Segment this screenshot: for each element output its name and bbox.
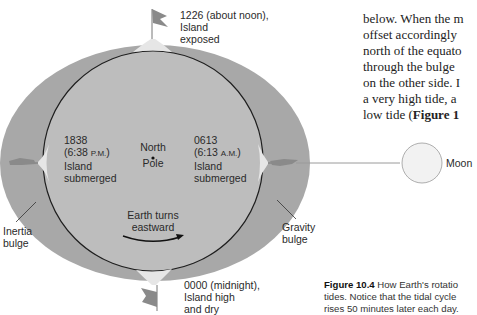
label-rotation: Earth turns eastward — [118, 209, 188, 233]
label-gravity-line1: Gravity — [282, 221, 315, 233]
label-inertia-bulge: Inertia bulge — [3, 225, 32, 249]
label-morning: 0613 (6:13 A.M.) Island submerged — [194, 134, 247, 184]
label-morning-clock: (6:13 A.M.) — [194, 146, 247, 160]
caption-figure-number: Figure 10.4 — [324, 279, 375, 290]
moon-circle — [402, 143, 442, 183]
label-evening-time: 1838 — [64, 134, 117, 146]
body-text: low tide ( — [363, 107, 413, 122]
label-evening-ampm: P.M. — [91, 149, 106, 158]
label-morning-line4: submerged — [194, 172, 247, 184]
caption-line: tides. Notice that the tidal cycle — [324, 291, 459, 303]
label-noon: 1226 (about noon), Island exposed — [180, 9, 269, 45]
label-noon-time: 1226 (about noon), — [180, 9, 269, 21]
label-morning-ampm: A.M. — [221, 149, 237, 158]
label-rotation-line1: Earth turns — [118, 209, 188, 221]
label-morning-time: 0613 — [194, 134, 247, 146]
label-evening-clock: (6:38 P.M.) — [64, 146, 117, 160]
label-morning-clock-time: (6:13 — [194, 146, 221, 158]
label-gravity-line2: bulge — [282, 233, 315, 245]
caption-line: Figure 10.4 How Earth's rotatio — [324, 279, 459, 291]
label-evening-line4: submerged — [64, 172, 117, 184]
label-inertia-line1: Inertia — [3, 225, 32, 237]
figure-caption: Figure 10.4 How Earth's rotatio tides. N… — [324, 279, 459, 315]
label-midnight-line2: Island high — [184, 291, 260, 303]
label-evening-clock-time: (6:38 — [64, 146, 91, 158]
label-midnight: 0000 (midnight), Island high and dry — [184, 279, 260, 315]
label-rotation-line2: eastward — [118, 221, 188, 233]
label-moon: Moon — [446, 157, 472, 169]
label-north-pole: North Pole — [133, 141, 173, 169]
body-line: on the other side. I — [363, 75, 477, 91]
body-line: below. When the m — [363, 11, 477, 27]
caption-line: rises 50 minutes later each day. — [324, 303, 459, 315]
label-noon-line3: exposed — [180, 33, 269, 45]
body-line: through the bulge — [363, 59, 477, 75]
body-line: low tide (Figure 1 — [363, 107, 477, 123]
caption-text: How Earth's rotatio — [375, 279, 458, 290]
flag-top-icon — [152, 9, 168, 39]
label-inertia-line2: bulge — [3, 237, 32, 249]
label-midnight-time: 0000 (midnight), — [184, 279, 260, 291]
label-pole: Pole — [133, 157, 173, 169]
label-evening-paren: ) — [106, 146, 110, 158]
label-morning-line3: Island — [194, 160, 247, 172]
label-evening: 1838 (6:38 P.M.) Island submerged — [64, 134, 117, 184]
label-north: North — [133, 141, 173, 153]
flag-bottom-icon — [141, 285, 157, 311]
body-line: a very high tide, a — [363, 91, 477, 107]
figure-reference: Figure 1 — [413, 107, 459, 122]
body-paragraph: rises approximately 50 minutes below. Wh… — [363, 0, 477, 123]
label-noon-line2: Island — [180, 21, 269, 33]
label-gravity-bulge: Gravity bulge — [282, 221, 315, 245]
label-evening-line3: Island — [64, 160, 117, 172]
label-midnight-line3: and dry — [184, 303, 260, 315]
label-morning-paren: ) — [237, 146, 241, 158]
body-line: offset accordingly — [363, 27, 477, 43]
body-line: north of the equato — [363, 43, 477, 59]
